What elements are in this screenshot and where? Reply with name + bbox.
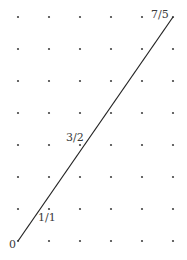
- lattice-point: [79, 240, 81, 242]
- lattice-point: [141, 144, 143, 146]
- label-7-over-5: 7/5: [151, 8, 169, 21]
- lattice-point: [17, 48, 19, 50]
- lattice-point: [110, 112, 112, 114]
- lattice-point: [110, 144, 112, 146]
- lattice-point: [110, 80, 112, 82]
- lattice-point: [141, 240, 143, 242]
- lattice-point: [141, 80, 143, 82]
- lattice-point: [110, 208, 112, 210]
- lattice-point: [48, 80, 50, 82]
- lattice-point: [141, 176, 143, 178]
- lattice-point: [172, 144, 174, 146]
- lattice-point: [48, 112, 50, 114]
- lattice-point: [79, 112, 81, 114]
- lattice-point: [172, 112, 174, 114]
- lattice-point: [48, 208, 50, 210]
- lattice-point: [17, 176, 19, 178]
- lattice-point: [172, 80, 174, 82]
- lattice-point: [141, 208, 143, 210]
- lattice-point: [79, 144, 81, 146]
- lattice-point: [110, 48, 112, 50]
- lattice-point: [79, 80, 81, 82]
- lattice-point: [17, 16, 19, 18]
- lattice-point: [48, 16, 50, 18]
- lattice-point: [79, 176, 81, 178]
- lattice-point: [110, 240, 112, 242]
- lattice-point: [172, 240, 174, 242]
- lattice-point: [17, 208, 19, 210]
- label-3-over-2: 3/2: [66, 131, 84, 144]
- lattice-point: [141, 48, 143, 50]
- lattice-point: [141, 112, 143, 114]
- lattice-point: [79, 16, 81, 18]
- lattice-point: [48, 176, 50, 178]
- lattice-point: [110, 16, 112, 18]
- lattice-point: [48, 144, 50, 146]
- lattice-point: [48, 240, 50, 242]
- label-1-over-1: 1/1: [38, 211, 56, 224]
- lattice-point: [48, 48, 50, 50]
- label-origin: 0: [9, 238, 16, 251]
- lattice-diagram: 0 1/1 3/2 7/5: [0, 0, 187, 260]
- lattice-point: [17, 144, 19, 146]
- lattice-point: [17, 112, 19, 114]
- lattice-point: [17, 80, 19, 82]
- lattice-point: [172, 208, 174, 210]
- lattice-point: [79, 48, 81, 50]
- lattice-point: [110, 176, 112, 178]
- lattice-point: [172, 176, 174, 178]
- lattice-point: [172, 48, 174, 50]
- slope-ray: [18, 17, 173, 241]
- lattice-point: [79, 208, 81, 210]
- lattice-point: [141, 16, 143, 18]
